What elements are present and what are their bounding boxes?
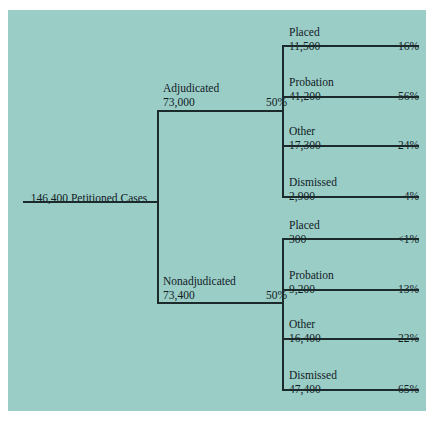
leaf-underline-adj-dismissed bbox=[282, 196, 419, 198]
leaf-node-non-placed: Placed 300 <1% bbox=[289, 219, 419, 246]
split-vertical-adjudicated bbox=[282, 45, 284, 197]
leaf-label-non-placed: Placed bbox=[289, 219, 419, 233]
leaf-node-adj-other: Other 17,300 24% bbox=[289, 125, 419, 152]
root-underline bbox=[23, 201, 158, 203]
split-vertical-nonadjudicated bbox=[282, 238, 284, 390]
leaf-label-non-dismissed: Dismissed bbox=[289, 369, 419, 383]
branch-connector-adjudicated bbox=[157, 110, 284, 112]
leaf-node-adj-dismissed: Dismissed 2,900 4% bbox=[289, 176, 419, 203]
leaf-underline-non-other bbox=[282, 338, 419, 340]
branch-value-adjudicated: 73,000 bbox=[163, 96, 195, 110]
trunk-vertical bbox=[157, 110, 159, 303]
leaf-label-non-other: Other bbox=[289, 318, 419, 332]
branch-row2-nonadjudicated: 73,400 50% bbox=[163, 289, 287, 303]
leaf-label-adj-placed: Placed bbox=[289, 26, 419, 40]
leaf-node-adj-placed: Placed 11,500 16% bbox=[289, 26, 419, 53]
branch-value-nonadjudicated: 73,400 bbox=[163, 289, 195, 303]
leaf-underline-non-probation bbox=[282, 289, 419, 291]
branch-label-adjudicated: Adjudicated bbox=[163, 82, 287, 96]
leaf-underline-adj-probation bbox=[282, 96, 419, 98]
leaf-node-adj-probation: Probation 41,200 56% bbox=[289, 76, 419, 103]
branch-connector-nonadjudicated bbox=[157, 302, 284, 304]
root-label: 146,400 Petitioned Cases bbox=[23, 192, 155, 206]
branch-row2-adjudicated: 73,000 50% bbox=[163, 96, 287, 110]
leaf-label-adj-other: Other bbox=[289, 125, 419, 139]
leaf-underline-adj-other bbox=[282, 145, 419, 147]
leaf-label-non-probation: Probation bbox=[289, 269, 419, 283]
branch-node-nonadjudicated: Nonadjudicated 73,400 50% bbox=[163, 275, 287, 302]
leaf-node-non-probation: Probation 9,200 13% bbox=[289, 269, 419, 296]
leaf-label-adj-dismissed: Dismissed bbox=[289, 176, 419, 190]
leaf-underline-adj-placed bbox=[282, 45, 419, 47]
leaf-underline-non-dismissed bbox=[282, 389, 419, 391]
branch-label-nonadjudicated: Nonadjudicated bbox=[163, 275, 287, 289]
diagram-panel: 146,400 Petitioned Cases Adjudicated 73,… bbox=[8, 10, 426, 411]
leaf-node-non-other: Other 16,400 22% bbox=[289, 318, 419, 345]
leaf-node-non-dismissed: Dismissed 47,400 65% bbox=[289, 369, 419, 396]
branch-node-adjudicated: Adjudicated 73,000 50% bbox=[163, 82, 287, 109]
leaf-underline-non-placed bbox=[282, 238, 419, 240]
figure-canvas: 146,400 Petitioned Cases Adjudicated 73,… bbox=[0, 0, 440, 421]
root-node: 146,400 Petitioned Cases bbox=[23, 192, 155, 206]
leaf-label-adj-probation: Probation bbox=[289, 76, 419, 90]
